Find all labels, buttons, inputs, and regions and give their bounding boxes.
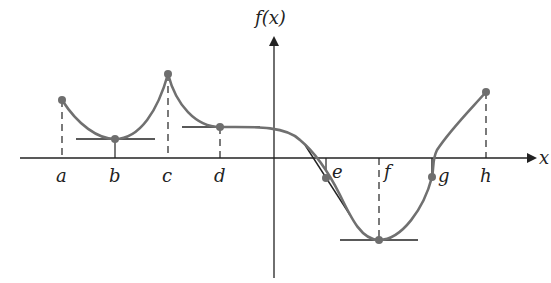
point-d: [216, 123, 224, 131]
function-graph-diagram: f(x) x a b c d e f g h: [0, 0, 551, 283]
label-h: h: [480, 165, 492, 186]
point-h: [482, 88, 490, 96]
y-axis-label: f(x): [253, 7, 286, 28]
graph-canvas: f(x) x a b c d e f g h: [0, 0, 551, 283]
label-a: a: [56, 165, 67, 186]
point-e: [322, 174, 330, 182]
label-b: b: [109, 165, 121, 186]
point-b: [111, 135, 119, 143]
label-g: g: [438, 165, 450, 186]
label-d: d: [214, 165, 226, 186]
label-f: f: [382, 161, 394, 182]
x-axis-label: x: [539, 147, 549, 168]
point-c: [164, 70, 172, 78]
label-e: e: [332, 161, 343, 182]
point-a: [58, 96, 66, 104]
point-g: [428, 173, 436, 181]
point-f: [375, 236, 383, 244]
label-c: c: [162, 165, 172, 186]
